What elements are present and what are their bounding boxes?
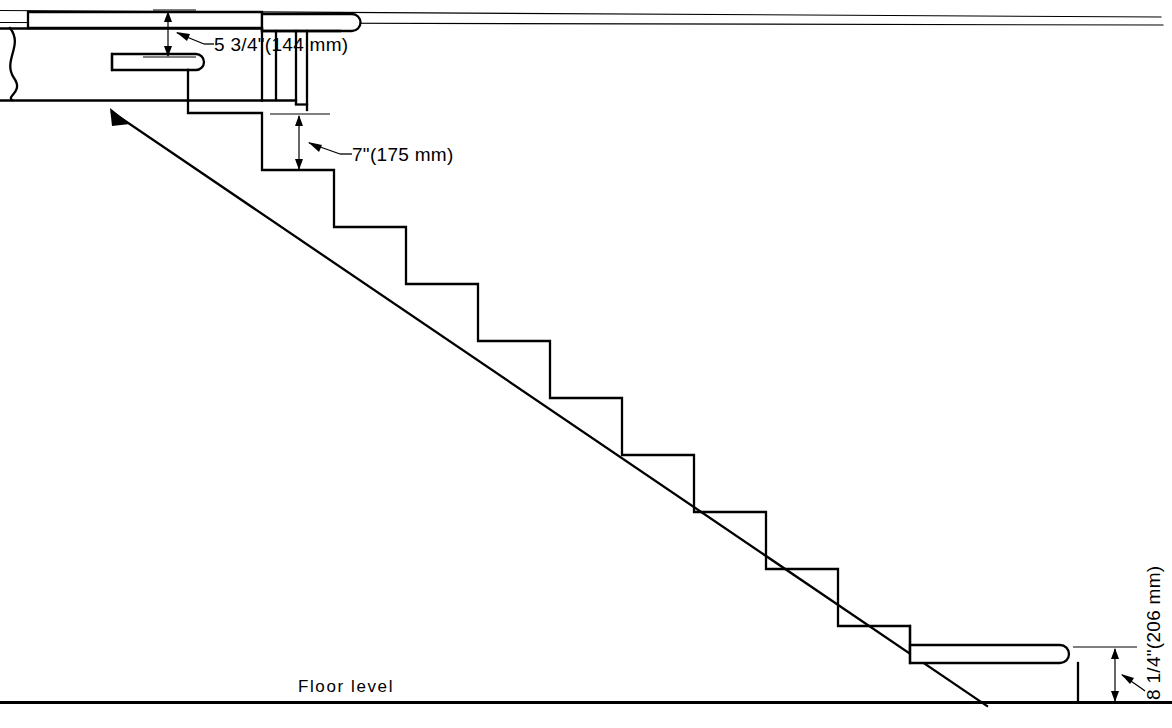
dimension-bottom-riser: 8 1/4"(206 mm) <box>1073 566 1164 703</box>
dim-label-bottom-riser: 8 1/4"(206 mm) <box>1143 566 1164 701</box>
stair-step-profile <box>188 70 910 652</box>
bottom-tread-nosing-profile <box>910 645 1069 663</box>
arrowhead-up <box>1111 648 1119 659</box>
arrowhead-down <box>295 159 303 170</box>
dim-label-top-riser: 5 3/4"(144 mm) <box>214 34 349 55</box>
stringer-line <box>112 112 987 706</box>
step-polyline <box>188 70 910 652</box>
stair-section-drawing: 5 3/4"(144 mm) 7"(175 mm) <box>0 0 1172 728</box>
bottom-tread-nosing <box>910 626 1078 702</box>
dim-label-typical-riser: 7"(175 mm) <box>352 144 454 165</box>
arrowhead-up <box>295 115 303 126</box>
landing-top-nosing <box>262 14 360 31</box>
break-line-left <box>10 28 17 100</box>
arrowhead-down <box>1111 691 1119 702</box>
dimension-typical-riser: 7"(175 mm) <box>270 114 454 170</box>
leader-arrowhead <box>176 32 190 41</box>
stringer-start-marker <box>110 108 130 126</box>
landing-top-slab <box>28 12 262 28</box>
drawing-canvas: 5 3/4"(144 mm) 7"(175 mm) <box>0 0 1172 728</box>
floor-level-label: Floor level <box>298 677 394 696</box>
leader-arrowhead <box>308 142 322 152</box>
